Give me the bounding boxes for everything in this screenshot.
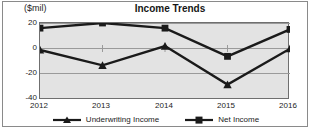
x-tick-label: 2016 [268, 101, 308, 110]
data-point-marker [162, 25, 169, 32]
y-tick-label: 0 [21, 44, 37, 52]
plot-area [39, 22, 289, 99]
data-point-marker [40, 25, 43, 32]
plot-canvas [40, 23, 290, 100]
chart-title: Income Trends [100, 3, 240, 14]
data-point-marker [99, 23, 106, 26]
y-tick-label: 20 [21, 19, 37, 27]
x-tick-label: 2013 [81, 101, 121, 110]
data-point-marker [287, 26, 290, 33]
legend-entry-underwriting-income[interactable]: Underwriting Income [53, 115, 159, 125]
square-marker-icon [185, 115, 213, 125]
x-tick-label: 2015 [206, 101, 246, 110]
legend-label: Net Income [218, 115, 259, 124]
x-axis-tick-labels: 2012 2013 2014 2015 2016 [0, 101, 312, 113]
data-point-marker [224, 53, 231, 60]
series-net-income [40, 23, 290, 60]
x-tick-label: 2014 [144, 101, 184, 110]
legend-label: Underwriting Income [86, 115, 159, 124]
x-tick-label: 2012 [19, 101, 59, 110]
y-tick-label: -20 [21, 69, 37, 77]
legend-entry-net-income[interactable]: Net Income [185, 115, 259, 125]
chart-figure: ($mil) Income Trends 20 0 -20 -40 [0, 0, 312, 135]
triangle-marker-icon [53, 115, 81, 125]
chart-legend: Underwriting Income Net Income [0, 113, 312, 126]
